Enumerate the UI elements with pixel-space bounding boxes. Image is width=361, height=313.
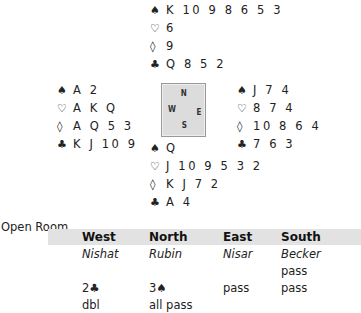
bidding-round: dbl all pass bbox=[48, 296, 361, 313]
west-clubs: ♣K J 10 9 bbox=[57, 135, 138, 153]
heart-icon: ♡ bbox=[150, 20, 166, 38]
player-west: Nishat bbox=[82, 247, 119, 261]
diamond-icon: ◊ bbox=[237, 118, 253, 136]
club-icon: ♣ bbox=[150, 194, 166, 212]
spade-icon: ♠ bbox=[57, 82, 73, 100]
bid: 2♣ bbox=[82, 281, 100, 295]
bidding-round: 2♣ 3♠ pass pass bbox=[48, 279, 361, 296]
player-names-row: Nishat Rubin Nisar Becker bbox=[48, 245, 361, 262]
north-hand: ♠K 10 9 8 6 5 3 ♡6 ◊9 ♣Q 8 5 2 bbox=[150, 1, 283, 73]
club-icon: ♣ bbox=[150, 56, 166, 74]
club-icon: ♣ bbox=[57, 136, 73, 154]
bid: 3♠ bbox=[149, 281, 167, 295]
heart-icon: ♡ bbox=[150, 158, 166, 176]
bidding-table: West North East South Nishat Rubin Nisar… bbox=[48, 229, 361, 313]
spade-icon: ♠ bbox=[150, 2, 166, 20]
bid: pass bbox=[281, 264, 307, 278]
south-clubs: ♣A 4 bbox=[150, 193, 263, 211]
header-west: West bbox=[82, 230, 116, 244]
diamond-icon: ◊ bbox=[57, 118, 73, 136]
north-clubs: ♣Q 8 5 2 bbox=[150, 55, 283, 73]
spade-icon: ♠ bbox=[150, 140, 166, 158]
diamond-icon: ◊ bbox=[150, 38, 166, 56]
spade-icon: ♠ bbox=[237, 82, 253, 100]
diamond-icon: ◊ bbox=[150, 176, 166, 194]
header-east: East bbox=[223, 230, 252, 244]
compass-diagram: N W E S bbox=[161, 83, 206, 137]
north-diamonds: ◊9 bbox=[150, 37, 283, 55]
heart-icon: ♡ bbox=[237, 100, 253, 118]
header-north: North bbox=[149, 230, 187, 244]
bid: all pass bbox=[149, 298, 192, 312]
west-spades: ♠A 2 bbox=[57, 81, 138, 99]
south-diamonds: ◊K J 7 2 bbox=[150, 175, 263, 193]
player-south: Becker bbox=[281, 247, 321, 261]
player-east: Nisar bbox=[223, 247, 253, 261]
west-hearts: ♡A K Q bbox=[57, 99, 138, 117]
south-spades: ♠Q bbox=[150, 139, 263, 157]
east-hearts: ♡8 7 4 bbox=[237, 99, 321, 117]
north-hearts: ♡6 bbox=[150, 19, 283, 37]
bidding-header: West North East South bbox=[48, 229, 361, 245]
player-north: Rubin bbox=[149, 247, 182, 261]
bidding-round: pass bbox=[48, 262, 361, 279]
south-hand: ♠Q ♡J 10 9 5 3 2 ◊K J 7 2 ♣A 4 bbox=[150, 139, 263, 211]
compass-west: W bbox=[168, 104, 176, 114]
south-hearts: ♡J 10 9 5 3 2 bbox=[150, 157, 263, 175]
east-diamonds: ◊10 8 6 4 bbox=[237, 117, 321, 135]
bid: pass bbox=[223, 281, 249, 295]
compass-north: N bbox=[181, 88, 187, 98]
compass-south: S bbox=[182, 120, 187, 130]
north-spades: ♠K 10 9 8 6 5 3 bbox=[150, 1, 283, 19]
west-hand: ♠A 2 ♡A K Q ◊A Q 5 3 ♣K J 10 9 bbox=[57, 81, 138, 153]
bid: pass bbox=[281, 281, 307, 295]
west-diamonds: ◊A Q 5 3 bbox=[57, 117, 138, 135]
header-south: South bbox=[281, 230, 321, 244]
bid: dbl bbox=[82, 298, 100, 312]
compass-east: E bbox=[197, 107, 202, 117]
east-spades: ♠J 7 4 bbox=[237, 81, 321, 99]
heart-icon: ♡ bbox=[57, 100, 73, 118]
